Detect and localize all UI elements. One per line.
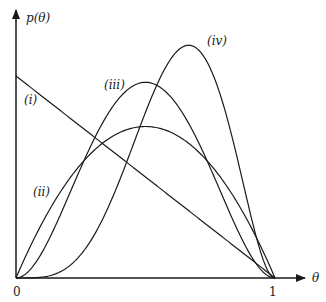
x-tick-0: 0: [13, 285, 21, 299]
density-plot: p(θ) θ 0 1 (i) (ii) (iii) (iv): [0, 0, 326, 302]
curves-group: [16, 45, 275, 278]
curve-i: [16, 76, 275, 278]
x-tick-1: 1: [269, 285, 277, 299]
curve-iv: [16, 45, 275, 278]
curve-label-i: (i): [24, 93, 38, 107]
x-axis-label: θ: [312, 271, 320, 285]
curve-label-ii: (ii): [33, 185, 50, 199]
curve-label-iv: (iv): [207, 34, 227, 48]
y-axis-label: p(θ): [26, 11, 51, 25]
curve-ii: [16, 127, 275, 279]
curve-label-iii: (iii): [104, 78, 125, 92]
